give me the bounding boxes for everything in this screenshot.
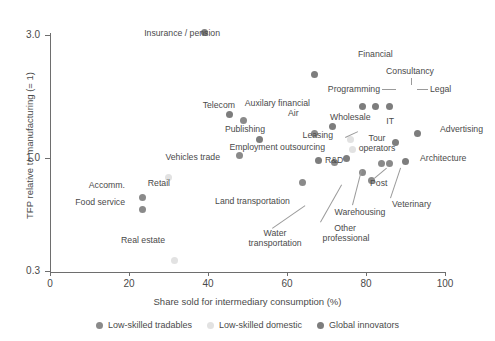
point-label-tour: Tour	[353, 133, 401, 143]
data-point	[402, 158, 409, 165]
legend-item[interactable]: Low-skilled tradables	[96, 320, 192, 330]
data-point	[139, 194, 146, 201]
point-label-advertising: Advertising	[440, 124, 483, 134]
legend-item[interactable]: Global innovators	[317, 320, 399, 330]
legend-swatch-icon	[96, 322, 103, 329]
chart-legend: Low-skilled tradablesLow-skilled domesti…	[0, 320, 495, 330]
point-label-foodservice: Food service	[18, 197, 125, 207]
point-label-vehicles: Vehicles trade	[110, 152, 220, 162]
point-label-air: Air	[288, 108, 299, 118]
point-label-rnd: R&D	[325, 155, 343, 165]
x-tick-60	[287, 272, 288, 276]
data-point	[386, 103, 393, 110]
data-point	[236, 152, 243, 159]
x-ticklabel-60: 60	[267, 278, 307, 289]
legend-label: Low-skilled domestic	[219, 320, 302, 330]
data-point	[372, 103, 379, 110]
point-label-other-1: Other	[310, 223, 380, 233]
data-point	[378, 160, 385, 167]
data-point	[311, 71, 318, 78]
data-point	[171, 257, 178, 264]
data-point	[139, 206, 146, 213]
y-ticklabel-03: 0.3	[0, 266, 40, 276]
point-label-consultancy: Consultancy	[345, 66, 475, 76]
x-ticklabel-80: 80	[346, 278, 386, 289]
point-label-land: Land transportation	[185, 196, 320, 206]
data-point	[359, 103, 366, 110]
x-axis-title: Share sold for intermediary consumption …	[0, 296, 495, 307]
point-label-tour-operators: operators	[347, 143, 407, 153]
y-tick-1	[45, 158, 50, 159]
point-label-employment: Employment outsourcing	[170, 142, 325, 152]
data-point	[240, 117, 247, 124]
legend-item[interactable]: Low-skilled domestic	[207, 320, 302, 330]
x-ticklabel-0: 0	[30, 278, 70, 289]
x-tick-40	[208, 272, 209, 276]
leader-line	[390, 168, 401, 198]
point-label-programming: Programming	[250, 84, 380, 94]
legend-swatch-icon	[317, 322, 324, 329]
point-label-warehousing: Warehousing	[310, 207, 410, 217]
data-point	[329, 123, 336, 130]
x-tick-80	[366, 272, 367, 276]
data-point	[343, 155, 350, 162]
point-label-post: Post	[370, 178, 387, 188]
point-label-leasing: Leasing	[275, 130, 333, 140]
leader-line	[352, 170, 362, 205]
point-label-other-2: professional	[303, 233, 389, 243]
x-ticklabel-100: 100	[425, 278, 465, 289]
legend-label: Global innovators	[329, 320, 399, 330]
point-label-architecture: Architecture	[420, 153, 466, 163]
point-label-realestate: Real estate	[60, 235, 165, 245]
point-label-legal: Legal	[430, 84, 451, 94]
point-label-auxilary: Auxilary financial	[200, 98, 310, 108]
point-label-it: IT	[358, 116, 394, 126]
x-ticklabel-40: 40	[188, 278, 228, 289]
point-label-financial: Financial	[358, 49, 393, 59]
legend-swatch-icon	[207, 322, 214, 329]
x-tick-0	[50, 272, 51, 276]
leader-line	[411, 78, 412, 85]
x-tick-100	[445, 272, 446, 276]
data-point	[315, 157, 322, 164]
y-axis-line	[50, 33, 51, 272]
x-ticklabel-20: 20	[109, 278, 149, 289]
leader-line	[382, 89, 396, 90]
x-axis-line	[50, 272, 446, 273]
scatter-chart: 3.0 1.0 0.3 TFP relative to manufacturin…	[0, 0, 495, 341]
data-point	[414, 130, 421, 137]
point-label-publishing: Publishing	[195, 124, 265, 134]
point-label-accomm: Accomm.	[30, 180, 125, 190]
point-label-insurance: Insurance / pension	[20, 28, 220, 38]
leader-line	[417, 89, 428, 90]
data-point	[299, 179, 306, 186]
data-point	[386, 160, 393, 167]
leader-line	[272, 205, 306, 229]
x-tick-20	[129, 272, 130, 276]
legend-label: Low-skilled tradables	[108, 320, 192, 330]
data-point	[226, 111, 233, 118]
